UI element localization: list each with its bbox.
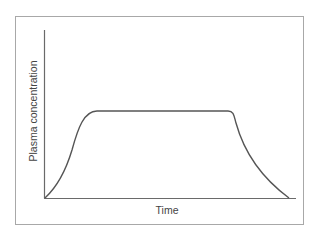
concentration-curve: [45, 111, 289, 198]
chart-plot: [0, 0, 319, 235]
y-axis-label: Plasma concentration: [27, 61, 39, 162]
x-axis-label: Time: [156, 204, 179, 216]
